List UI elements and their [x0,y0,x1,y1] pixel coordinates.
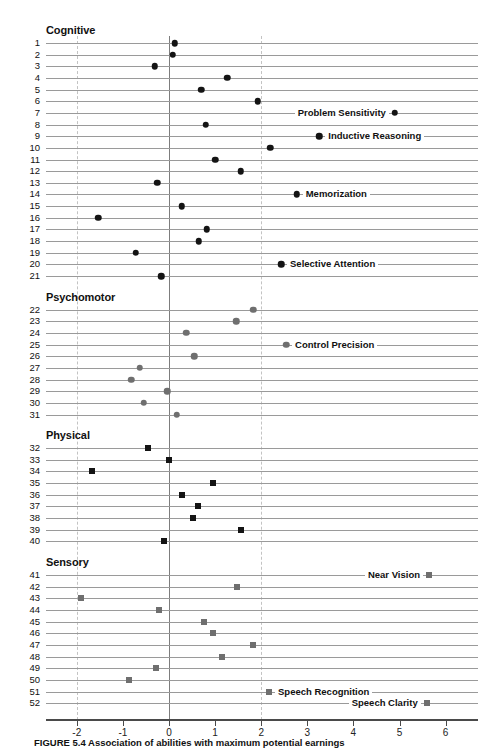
data-point[interactable] [89,468,95,474]
data-point[interactable] [424,700,430,706]
data-point[interactable] [316,133,323,140]
data-point[interactable] [140,400,147,407]
data-point[interactable] [145,445,151,451]
row-rule [46,448,478,449]
data-point[interactable] [169,51,176,58]
data-point[interactable] [179,203,186,210]
data-point[interactable] [196,238,203,245]
row-number-label: 41 [0,570,40,580]
data-point[interactable] [126,677,132,683]
data-point[interactable] [195,503,201,509]
data-point[interactable] [219,654,225,660]
point-callout-label: Speech Recognition [275,686,372,698]
data-point[interactable] [266,689,272,695]
x-axis-tick [169,721,170,726]
figure-caption-number: FIGURE 5.4 [34,737,86,748]
data-point[interactable] [166,457,172,463]
row-number-label: 29 [0,386,40,396]
point-callout-label: Inductive Reasoning [325,130,424,142]
row-number-label: 45 [0,617,40,627]
row-number-label: 19 [0,248,40,258]
data-point[interactable] [278,261,285,268]
data-point[interactable] [210,480,216,486]
row-number-label: 32 [0,443,40,453]
row-rule [46,657,478,658]
data-point[interactable] [183,330,190,337]
row-number-label: 35 [0,478,40,488]
data-point[interactable] [153,665,159,671]
data-point[interactable] [151,63,158,70]
row-number-label: 42 [0,582,40,592]
data-point[interactable] [212,156,219,163]
data-point[interactable] [164,388,171,395]
data-point[interactable] [137,365,144,372]
data-point[interactable] [234,584,240,590]
row-number-label: 16 [0,213,40,223]
data-point[interactable] [233,318,240,325]
data-point[interactable] [250,642,256,648]
row-number-label: 51 [0,687,40,697]
row-number-label: 52 [0,698,40,708]
data-point[interactable] [201,619,207,625]
data-point[interactable] [426,572,432,578]
x-axis-tick [446,721,447,726]
row-rule [46,171,478,172]
point-callout-label: Speech Clarity [349,697,421,709]
data-point[interactable] [156,607,162,613]
row-number-label: 5 [0,85,40,95]
data-point[interactable] [78,595,84,601]
data-point[interactable] [204,226,211,233]
data-point[interactable] [203,121,210,128]
row-number-label: 43 [0,593,40,603]
row-number-label: 30 [0,398,40,408]
point-callout-label: Control Precision [292,339,377,351]
row-rule [46,55,478,56]
data-point[interactable] [161,538,167,544]
row-number-label: 18 [0,236,40,246]
row-number-label: 21 [0,271,40,281]
data-point[interactable] [191,353,198,360]
row-number-label: 1 [0,38,40,48]
data-point[interactable] [238,527,244,533]
data-point[interactable] [392,110,399,117]
data-point[interactable] [128,376,135,383]
data-point[interactable] [133,249,140,256]
data-point[interactable] [267,145,274,152]
data-point[interactable] [154,180,161,187]
data-point[interactable] [210,630,216,636]
data-point[interactable] [250,306,257,313]
row-rule [46,160,478,161]
row-number-label: 31 [0,410,40,420]
row-number-label: 27 [0,363,40,373]
row-number-label: 4 [0,73,40,83]
data-point[interactable] [174,411,181,418]
row-number-label: 24 [0,328,40,338]
data-point[interactable] [179,492,185,498]
data-point[interactable] [238,168,245,175]
row-number-label: 26 [0,351,40,361]
row-number-label: 37 [0,501,40,511]
row-number-label: 39 [0,525,40,535]
row-rule [46,518,478,519]
data-point[interactable] [158,273,165,280]
section-title-physical: Physical [46,429,90,441]
data-point[interactable] [254,98,261,105]
data-point[interactable] [198,86,205,93]
data-point[interactable] [293,191,300,198]
row-number-label: 23 [0,316,40,326]
data-point[interactable] [224,75,231,82]
data-point[interactable] [172,40,179,47]
data-point[interactable] [190,515,196,521]
row-number-label: 10 [0,143,40,153]
data-point[interactable] [283,341,290,348]
row-number-label: 3 [0,61,40,71]
reference-line-dashed-1 [261,36,262,720]
row-rule [46,78,478,79]
row-rule [46,587,478,588]
row-number-label: 38 [0,513,40,523]
point-callout-label: Problem Sensitivity [295,107,389,119]
row-rule [46,241,478,242]
row-number-label: 7 [0,108,40,118]
data-point[interactable] [95,215,102,222]
x-axis-tick [123,721,124,726]
